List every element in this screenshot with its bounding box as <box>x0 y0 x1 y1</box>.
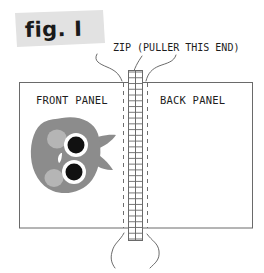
figure-number-banner: fig. I <box>15 10 105 47</box>
blob-body <box>31 117 101 193</box>
leader-line-bottom-right <box>147 234 159 268</box>
blob-eye-lower <box>66 164 83 181</box>
blob-character <box>31 117 116 193</box>
blob-eye-upper <box>68 137 85 154</box>
leader-line-right <box>146 55 176 81</box>
leader-line-bottom-left <box>111 233 124 268</box>
blob-cheek-upper <box>47 130 67 149</box>
back-panel-label: BACK PANEL <box>160 94 225 106</box>
zipper-assembly <box>129 71 143 241</box>
figure-canvas: fig. I ZIP (PULLER THIS END) <box>0 0 264 273</box>
blob-cheek-lower <box>45 169 64 187</box>
zip-callout-label: ZIP (PULLER THIS END) <box>113 42 239 53</box>
front-panel-label: FRONT PANEL <box>36 94 108 106</box>
leader-line-left <box>96 54 122 81</box>
figure-number-label: fig. I <box>25 17 83 42</box>
figure-illustration: fig. I ZIP (PULLER THIS END) <box>0 0 264 273</box>
